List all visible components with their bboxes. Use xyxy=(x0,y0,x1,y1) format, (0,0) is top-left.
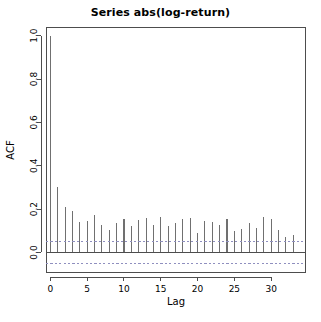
y-axis-ticks: 0.00.20.40.60.81.0 xyxy=(29,28,41,259)
x-tick-label: 25 xyxy=(229,284,240,294)
x-tick-label: 20 xyxy=(192,284,204,294)
x-tick-label: 30 xyxy=(265,284,277,294)
x-axis-label: Lag xyxy=(167,296,185,307)
x-tick-label: 0 xyxy=(48,284,54,294)
y-tick-label: 1.0 xyxy=(29,28,39,43)
acf-bars-group xyxy=(50,36,293,253)
y-tick-label: 0.0 xyxy=(29,245,39,260)
y-tick-label: 0.2 xyxy=(29,202,39,216)
y-tick-label: 0.6 xyxy=(29,115,39,130)
y-tick-label: 0.8 xyxy=(29,72,39,87)
y-tick-label: 0.4 xyxy=(29,158,39,173)
x-tick-label: 5 xyxy=(84,284,90,294)
x-tick-label: 15 xyxy=(155,284,166,294)
x-axis-ticks: 051015202530 xyxy=(48,277,278,294)
y-axis-label: ACF xyxy=(5,140,16,160)
x-tick-label: 10 xyxy=(118,284,130,294)
acf-plot-figure: Series abs(log-return) 0.00.20.40.60.81.… xyxy=(0,0,321,322)
acf-chart-canvas: 0.00.20.40.60.81.0 051015202530 ACF Lag xyxy=(0,0,321,322)
